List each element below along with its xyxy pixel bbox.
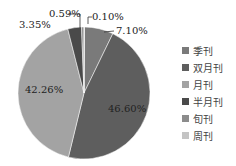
label-banyuekan: 3.35% bbox=[19, 20, 51, 30]
label-zhoukan: 0.10% bbox=[92, 12, 124, 22]
label-yuekan: 42.26% bbox=[25, 85, 63, 95]
legend-swatch bbox=[182, 47, 189, 54]
legend-item-yuekan: 月刊 bbox=[182, 76, 223, 93]
legend-swatch bbox=[182, 115, 189, 122]
label-shuangyuekan: 46.60% bbox=[108, 104, 146, 114]
legend: 季刊 双月刊 月刊 半月刊 旬刊 周刊 bbox=[182, 42, 223, 144]
legend-item-shuangyuekan: 双月刊 bbox=[182, 59, 223, 76]
legend-swatch bbox=[182, 132, 189, 139]
legend-item-xunkan: 旬刊 bbox=[182, 110, 223, 127]
legend-item-banyuekan: 半月刊 bbox=[182, 93, 223, 110]
legend-item-jikan: 季刊 bbox=[182, 42, 223, 59]
legend-swatch bbox=[182, 64, 189, 71]
legend-item-zhoukan: 周刊 bbox=[182, 127, 223, 144]
legend-swatch bbox=[182, 98, 189, 105]
legend-swatch bbox=[182, 81, 189, 88]
label-jikan: 7.10% bbox=[116, 26, 148, 36]
label-xunkan: 0.59% bbox=[49, 9, 81, 19]
